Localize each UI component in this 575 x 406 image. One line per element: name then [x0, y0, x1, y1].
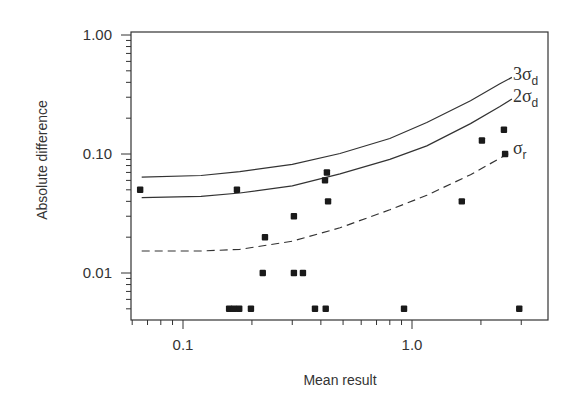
curve-label-subscript: d [532, 96, 539, 110]
data-point [137, 187, 143, 193]
data-point [323, 306, 329, 312]
data-point [324, 169, 330, 175]
x-tick-label: 0.1 [173, 336, 194, 353]
data-point [325, 198, 331, 204]
data-point [501, 127, 507, 133]
data-point [234, 187, 240, 193]
data-point [260, 270, 266, 276]
x-axis-title: Mean result [303, 372, 376, 388]
data-point [300, 270, 306, 276]
curve-label-subscript: d [532, 74, 539, 88]
y-axis-title: Absolute difference [34, 100, 50, 220]
curve-label-subscript: r [523, 148, 527, 162]
data-point [322, 177, 328, 183]
x-tick-label: 1.0 [402, 336, 423, 353]
chart: 0.11.0 1.000.100.01 3σd2σdσr Mean result… [0, 0, 575, 406]
data-point [312, 306, 318, 312]
data-point [291, 213, 297, 219]
data-point [236, 306, 242, 312]
y-tick-label: 0.10 [83, 145, 112, 162]
y-axis-ticks: 1.000.100.01 [83, 26, 131, 309]
data-point [262, 234, 268, 240]
data-point [502, 151, 508, 157]
data-point [516, 306, 522, 312]
x-axis-ticks: 0.11.0 [132, 320, 521, 353]
y-tick-label: 0.01 [83, 264, 112, 281]
data-point [291, 270, 297, 276]
data-point [459, 198, 465, 204]
y-tick-label: 1.00 [83, 26, 112, 43]
data-point [248, 306, 254, 312]
data-point [479, 137, 485, 143]
data-point [401, 306, 407, 312]
